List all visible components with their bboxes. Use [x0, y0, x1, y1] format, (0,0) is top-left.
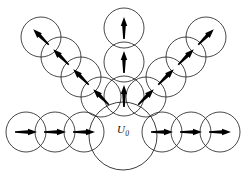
central-field-label-sub: 0 [125, 129, 129, 138]
figure-root: U0 [0, 0, 247, 176]
figure-canvas: U0 [0, 0, 247, 176]
